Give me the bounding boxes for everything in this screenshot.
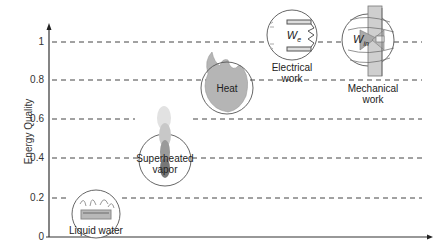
x-axis-arrow-icon (427, 235, 433, 240)
mechanical-symbol-w: W (353, 33, 363, 45)
y-tick-1: 1 (14, 36, 44, 47)
y-tick-0.8: 0.8 (14, 74, 44, 85)
electrical-symbol-w: W (287, 29, 297, 41)
y-tick-0: 0 (14, 231, 44, 242)
electrical-symbol: We (284, 30, 304, 45)
flame-icon (205, 52, 248, 112)
liquid-water-label: Liquid water (66, 225, 126, 236)
vapor-label-line2: vapor (135, 164, 195, 175)
y-axis-arrow-icon (47, 23, 52, 30)
mechanical-label-line2: work (343, 94, 403, 105)
heat-label: Heat (207, 83, 247, 94)
mechanical-symbol: Win (351, 34, 371, 49)
electrical-label-line2: work (262, 73, 322, 84)
y-axis-label: Energy Quality (23, 92, 34, 172)
mechanical-symbol-sub: in (363, 40, 368, 47)
electrical-symbol-sub: e (297, 36, 301, 43)
energy-quality-diagram (0, 0, 446, 251)
mechanical-label-line1: Mechanical (343, 83, 403, 94)
y-tick-0.2: 0.2 (14, 192, 44, 203)
vapor-label-line1: Superheated (135, 153, 195, 164)
electrical-label-line1: Electrical (262, 62, 322, 73)
